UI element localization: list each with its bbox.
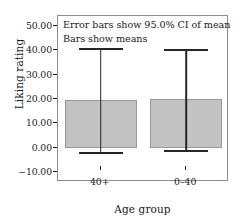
- y-axis-tick-label: 40.00: [10, 44, 52, 55]
- error-bar-stem: [185, 49, 187, 150]
- error-bar-cap-upper: [164, 49, 208, 51]
- x-axis-tick-label: 0–40: [174, 176, 196, 187]
- error-bar-cap-upper: [79, 48, 123, 50]
- y-axis-tick-mark: [53, 49, 57, 50]
- y-axis-tick-label: 0.00: [10, 141, 52, 152]
- y-axis-tick-label: 10.00: [10, 117, 52, 128]
- x-axis-tick-label: 40+: [90, 176, 110, 187]
- y-axis-tick-mark: [53, 147, 57, 148]
- y-axis-tick-label: 30.00: [10, 68, 52, 79]
- annotation-line: Error bars show 95.0% CI of mean: [63, 18, 230, 32]
- y-axis-tick-mark: [53, 74, 57, 75]
- y-axis-tick-mark: [53, 98, 57, 99]
- x-axis-tick-mark: [100, 166, 101, 170]
- y-axis-tick-mark: [53, 171, 57, 172]
- y-axis-tick-label: 50.00: [10, 19, 52, 30]
- x-axis-tick-mark: [185, 166, 186, 170]
- x-axis-title: Age group: [57, 203, 228, 215]
- chart-annotation: Error bars show 95.0% CI of meanBars sho…: [63, 18, 230, 45]
- annotation-line: Bars show means: [63, 32, 230, 46]
- y-axis-tick-label: −10.00: [10, 166, 52, 177]
- bar-chart-figure: Liking rating −10.000.0010.0020.0030.004…: [0, 0, 236, 219]
- y-axis-tick-label: 20.00: [10, 93, 52, 104]
- error-bar-cap-lower: [79, 152, 123, 154]
- y-axis-tick-mark: [53, 122, 57, 123]
- plot-area: Error bars show 95.0% CI of meanBars sho…: [57, 15, 228, 181]
- error-bar-stem: [100, 48, 102, 152]
- y-axis-tick-labels: −10.000.0010.0020.0030.0040.0050.00: [10, 0, 52, 219]
- y-axis-tick-mark: [53, 25, 57, 26]
- error-bar-cap-lower: [164, 150, 208, 152]
